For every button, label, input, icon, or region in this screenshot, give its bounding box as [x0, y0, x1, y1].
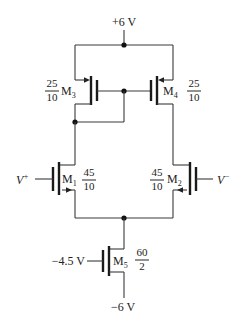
v-minus-label: V−: [217, 172, 230, 187]
m4-ratio-w: 25: [189, 77, 201, 89]
vdd-label: +6 V: [112, 15, 137, 29]
m4-ratio-l: 10: [189, 91, 201, 103]
m2-label: M2: [167, 172, 182, 188]
vdd-node-dot: [121, 42, 126, 47]
transistor-m3: [75, 45, 151, 122]
m1-label: M1: [62, 172, 77, 188]
circuit-diagram: +6 V 25 10 M3 M4 25 10: [0, 0, 245, 330]
m3-ratio-w: 25: [47, 77, 59, 89]
v-plus-label: V+: [16, 172, 29, 187]
m5-ratio-l: 2: [139, 260, 145, 272]
m3-ratio-l: 10: [47, 91, 59, 103]
transistor-m4: [151, 45, 173, 165]
m3-source-arrow-icon: [84, 77, 90, 83]
m1-ratio-w: 45: [84, 166, 96, 178]
m3-label: M3: [61, 84, 76, 100]
m2-ratio-l: 10: [152, 180, 164, 192]
m2-source-arrow-icon: [177, 187, 183, 193]
vss-label: −6 V: [111, 300, 136, 314]
transistor-m2: [173, 162, 213, 218]
m5-ratio-w: 60: [137, 246, 149, 258]
m2-ratio-w: 45: [152, 166, 164, 178]
transistor-m1: [35, 162, 75, 218]
m4-label: M4: [163, 84, 178, 100]
bias-label: −4.5 V: [52, 254, 86, 268]
m5-label: M5: [113, 254, 128, 270]
m1-ratio-l: 10: [84, 180, 96, 192]
m1-source-arrow-icon: [66, 187, 72, 193]
m4-source-arrow-icon: [158, 77, 164, 83]
